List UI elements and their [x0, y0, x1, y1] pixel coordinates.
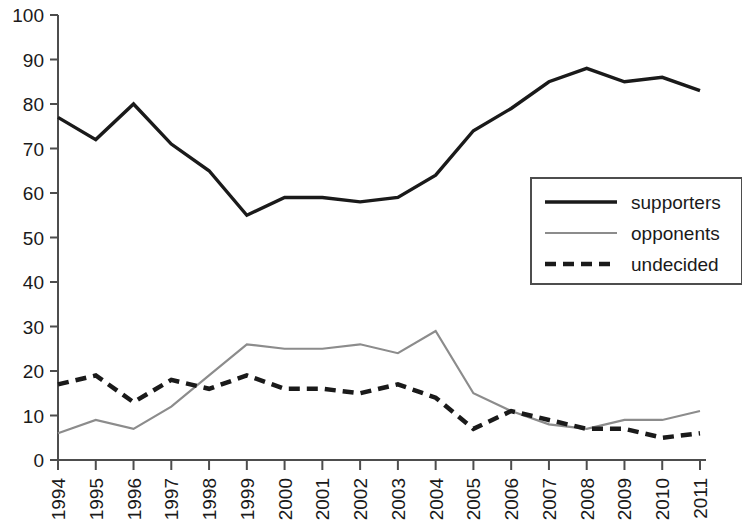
- legend-label-opponents: opponents: [631, 223, 720, 244]
- x-axis-tick-label: 2002: [350, 478, 371, 520]
- x-axis-tick-label: 2003: [388, 478, 409, 520]
- line-chart: 0102030405060708090100 19941995199619971…: [0, 0, 742, 531]
- x-axis-tick-label: 1998: [199, 478, 220, 520]
- y-axis-tick-label: 70: [23, 139, 44, 160]
- x-axis-tick-label: 2009: [614, 478, 635, 520]
- x-axis-tick-label: 1999: [237, 478, 258, 520]
- y-axis-tick-label: 90: [23, 50, 44, 71]
- x-axis-tick-label: 2001: [312, 478, 333, 520]
- x-axis-tick-label: 2000: [275, 478, 296, 520]
- x-axis-tick-label: 2007: [539, 478, 560, 520]
- x-axis-tick-label: 1996: [124, 478, 145, 520]
- y-axis-tick-label: 50: [23, 228, 44, 249]
- y-axis-tick-label: 0: [33, 450, 44, 471]
- y-axis-tick-label: 20: [23, 361, 44, 382]
- x-axis-tick-label: 2006: [501, 478, 522, 520]
- legend-label-supporters: supporters: [631, 192, 721, 213]
- x-axis-tick-label: 1995: [86, 478, 107, 520]
- y-axis-tick-label: 30: [23, 317, 44, 338]
- chart-canvas: 0102030405060708090100 19941995199619971…: [0, 0, 742, 531]
- x-axis-tick-label: 2004: [426, 478, 447, 521]
- x-axis-tick-label: 1994: [48, 478, 69, 521]
- y-axis-tick-label: 60: [23, 183, 44, 204]
- x-axis-tick-label: 2010: [652, 478, 673, 520]
- y-axis-tick-label: 100: [12, 5, 44, 26]
- y-axis-tick-label: 10: [23, 406, 44, 427]
- x-axis-tick-label: 1997: [161, 478, 182, 520]
- legend-label-undecided: undecided: [631, 254, 719, 275]
- x-axis-tick-label: 2011: [690, 478, 711, 519]
- x-axis-tick-label: 2005: [463, 478, 484, 520]
- y-axis-tick-label: 80: [23, 94, 44, 115]
- x-axis-tick-label: 2008: [577, 478, 598, 520]
- y-axis-tick-label: 40: [23, 272, 44, 293]
- chart-legend: supportersopponentsundecided: [531, 178, 742, 284]
